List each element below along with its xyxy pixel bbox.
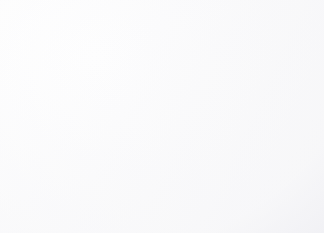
circle-medium-middle — [121, 53, 226, 156]
circle-small-right — [235, 44, 305, 115]
sketch-canvas: Overlapping circles pencil sketch Four h… — [0, 0, 324, 233]
stroke-pass-1 — [67, 114, 175, 221]
pencil-sketch-svg — [0, 0, 324, 233]
stroke-pass-2 — [235, 45, 304, 115]
stroke-pass-2 — [68, 111, 179, 222]
accent-arc-top — [74, 122, 168, 158]
stroke-pass-2 — [121, 53, 224, 156]
circle-medium-bottom — [67, 111, 178, 225]
accent-arc-top — [245, 54, 292, 68]
circle-large-top-left — [0, 21, 150, 138]
